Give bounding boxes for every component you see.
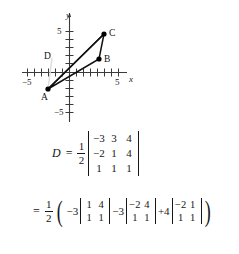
coordinate-plane-figure: y x −5 5 5 −5 A B C D <box>0 0 239 126</box>
matrix-cell: −2 <box>129 198 140 211</box>
matrix-cell: 1 <box>96 161 102 176</box>
minor-determinant-1: 1 4 1 1 <box>79 198 111 224</box>
minor-determinant-3: −2 1 1 1 <box>171 198 203 224</box>
matrix-cell: 1 <box>190 198 195 211</box>
matrix-cell: 4 <box>126 146 132 161</box>
point-a-dot <box>45 86 50 91</box>
x-tick-label-5: 5 <box>115 78 119 87</box>
matrix-3x3-determinant: −3 3 4 −2 1 4 1 1 1 <box>87 131 140 176</box>
matrix-cell: 1 <box>190 211 195 224</box>
y-tick-label-neg5: −5 <box>54 108 63 117</box>
matrix-cell: 1 <box>87 211 92 224</box>
open-paren: ( <box>57 201 63 222</box>
one-half-fraction-1: 1 2 <box>75 141 87 166</box>
matrix-cell: 1 <box>99 211 104 224</box>
point-label-d: D <box>44 52 51 62</box>
matrix-cell: 1 <box>87 198 92 211</box>
equals-sign-2: = <box>30 204 43 219</box>
point-label-b: B <box>104 55 110 65</box>
fraction-numerator-2: 1 <box>46 199 52 211</box>
determinant-line-1: D = 1 2 −3 3 4 −2 1 4 1 1 1 <box>52 131 140 176</box>
matrix-cell: −3 <box>93 131 105 146</box>
fraction-denominator-2: 2 <box>46 212 52 224</box>
cofactor-coefficient-2: −3 <box>111 205 125 217</box>
fraction-denominator-1: 2 <box>79 154 85 166</box>
graph-svg <box>0 0 239 126</box>
matrix-cell: 4 <box>99 198 104 211</box>
matrix-cell: −2 <box>175 198 186 211</box>
matrix-cell: 1 <box>111 161 117 176</box>
matrix-2x2: −2 4 1 1 <box>129 198 153 224</box>
close-paren: ) <box>204 201 210 222</box>
point-b-dot <box>96 56 101 61</box>
matrix-cell: 4 <box>126 131 132 146</box>
determinant-symbol: D <box>52 146 63 161</box>
y-axis-label: y <box>66 11 70 20</box>
matrix-cell: 4 <box>144 198 149 211</box>
matrix-cell: −2 <box>93 146 105 161</box>
cofactor-coefficient-3: +4 <box>157 205 171 217</box>
point-label-a: A <box>41 93 48 103</box>
determinant-line-2: = 1 2 ( −3 1 4 1 1 −3 −2 4 1 1 <box>30 198 212 224</box>
fraction-numerator-1: 1 <box>79 141 85 153</box>
matrix-2x2: −2 1 1 1 <box>175 198 199 224</box>
minor-determinant-2: −2 4 1 1 <box>125 198 157 224</box>
matrix-cell: 1 <box>178 211 183 224</box>
matrix-cell: 1 <box>126 161 132 176</box>
cofactor-coefficient-1: −3 <box>64 205 79 217</box>
matrix-3x3: −3 3 4 −2 1 4 1 1 1 <box>91 131 136 176</box>
matrix-cell: 3 <box>111 131 117 146</box>
point-label-c: C <box>109 29 115 39</box>
y-tick-label-5: 5 <box>57 27 61 36</box>
point-c-dot <box>101 31 106 36</box>
matrix-cell: 1 <box>144 211 149 224</box>
matrix-2x2: 1 4 1 1 <box>83 198 107 224</box>
x-tick-label-neg5: −5 <box>22 78 31 87</box>
equals-sign-1: = <box>63 146 76 161</box>
matrix-cell: 1 <box>132 211 137 224</box>
matrix-cell: 1 <box>111 146 117 161</box>
determinant-derivation: D = 1 2 −3 3 4 −2 1 4 1 1 1 = 1 2 <box>0 126 239 254</box>
x-axis-label: x <box>129 75 133 84</box>
one-half-fraction-2: 1 2 <box>43 199 55 224</box>
